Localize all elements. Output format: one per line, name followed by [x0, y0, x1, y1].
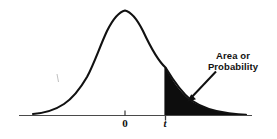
annotation-leader-line	[190, 72, 217, 100]
scan-artifact-mark	[57, 74, 59, 82]
annotation-line-1: Area or	[196, 50, 270, 61]
area-probability-annotation: Area or Probability	[196, 50, 270, 72]
x-axis-label-t: t	[154, 117, 176, 129]
x-axis-label-zero: 0	[113, 117, 137, 129]
annotation-line-2: Probability	[196, 61, 270, 72]
t-distribution-figure: Area or Probability 0 t	[0, 0, 277, 139]
